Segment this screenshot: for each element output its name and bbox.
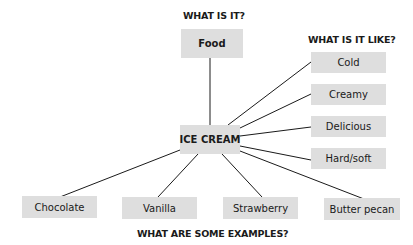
line-vanilla: [158, 154, 198, 197]
line-delicious: [240, 127, 311, 136]
line-chocolate: [60, 150, 180, 197]
example-box-strawberry: Strawberry: [223, 197, 298, 219]
center-box-ice-cream: ICE CREAM: [180, 125, 240, 154]
property-box-delicious: Delicious: [311, 116, 386, 137]
heading-examples: WHAT ARE SOME EXAMPLES?: [137, 228, 288, 239]
line-cold: [228, 62, 311, 125]
category-box-food: Food: [181, 29, 243, 58]
heading-what-is-it: WHAT IS IT?: [183, 10, 245, 21]
heading-what-is-it-like: WHAT IS IT LIKE?: [308, 34, 396, 45]
example-box-chocolate: Chocolate: [22, 196, 97, 218]
line-hard-soft: [240, 146, 311, 160]
example-box-vanilla: Vanilla: [122, 197, 197, 219]
example-box-butter-pecan: Butter pecan: [324, 198, 400, 220]
property-box-creamy: Creamy: [311, 84, 386, 105]
property-box-hard-soft: Hard/soft: [311, 148, 386, 169]
line-creamy: [240, 94, 311, 128]
line-strawberry: [222, 154, 262, 197]
property-box-cold: Cold: [311, 52, 386, 73]
